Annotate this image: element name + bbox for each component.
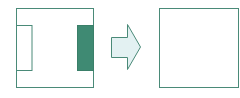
right-filled-panel [78,26,94,71]
transformation-diagram [0,0,240,98]
left-outlined-panel [17,26,33,71]
after-frame [160,9,239,88]
right-arrow-icon [112,25,141,70]
